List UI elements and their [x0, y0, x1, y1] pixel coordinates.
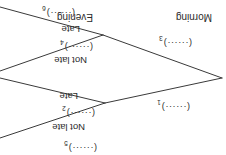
blank-dots-1: (······): [161, 102, 190, 112]
rotated-figure-group: Morning Evening (······)1 Not late (····…: [0, 0, 226, 155]
probability-blank-2[interactable]: (······)2: [63, 106, 95, 117]
branch-label-morning-late: Late: [60, 92, 79, 102]
branch-label-evening-not-late: Not late: [54, 56, 87, 66]
blank-dots-4: (······): [64, 42, 93, 52]
blank-index-1: 1: [157, 99, 161, 106]
probability-blank-4[interactable]: (······)4: [61, 40, 93, 51]
branch-line-morning-late: [0, 78, 105, 103]
blank-index-2: 2: [62, 105, 66, 112]
probability-blank-6[interactable]: (······)6: [43, 6, 75, 17]
blank-index-3: 3: [159, 35, 163, 42]
branch-label-morning-not-late: Not late: [52, 123, 85, 133]
blank-dots-2: (······): [66, 108, 95, 118]
blank-index-6: 6: [42, 5, 46, 12]
blank-dots-6: (······): [46, 8, 75, 18]
blank-dots-3: (······): [163, 38, 192, 48]
probability-blank-3[interactable]: (······)3: [160, 36, 192, 47]
figure-canvas: Morning Evening (······)1 Not late (····…: [0, 0, 226, 155]
tree-branch-lines: [0, 0, 226, 155]
probability-blank-1[interactable]: (······)1: [158, 100, 190, 111]
blank-index-5: 5: [64, 140, 68, 147]
branch-label-evening-late: Late: [62, 25, 81, 35]
probability-blank-5[interactable]: (······)5: [65, 141, 97, 152]
stage-label-morning: Morning: [176, 12, 212, 22]
blank-index-4: 4: [60, 39, 64, 46]
blank-dots-5: (······): [68, 143, 97, 153]
